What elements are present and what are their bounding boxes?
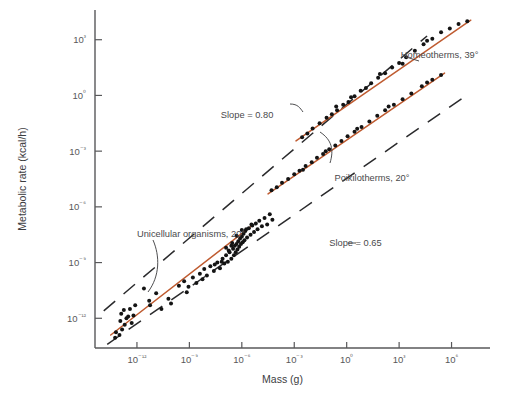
data-point (304, 164, 308, 168)
unicellular-label: Unicellular organisms, 20° (137, 229, 245, 239)
data-point (355, 127, 359, 131)
data-point (212, 269, 216, 273)
data-point (311, 126, 315, 130)
data-point (113, 336, 117, 340)
data-point (270, 188, 274, 192)
data-point (169, 301, 173, 305)
data-point (257, 219, 261, 223)
data-point (392, 103, 396, 107)
data-point (254, 222, 258, 226)
data-point (147, 299, 151, 303)
data-point (182, 279, 186, 283)
data-point (213, 262, 217, 266)
data-point (229, 257, 233, 261)
data-point (270, 218, 274, 222)
data-point (128, 307, 132, 311)
data-point (457, 22, 461, 26)
data-point (369, 81, 373, 85)
data-point (346, 134, 350, 138)
data-point (265, 223, 269, 227)
data-point (397, 61, 401, 65)
data-point (367, 119, 371, 123)
fit-line-homeotherms (296, 20, 471, 141)
data-point (159, 307, 163, 311)
data-point (166, 297, 170, 301)
data-point (133, 303, 137, 307)
data-point (131, 314, 135, 318)
data-point (430, 78, 434, 82)
data-point (422, 42, 426, 46)
data-point (310, 160, 314, 164)
data-point (297, 169, 301, 173)
data-point (119, 312, 123, 316)
chart-canvas: 10⁻¹²10⁻⁹10⁻⁶10⁻³10⁰10³10⁶10³10⁰10⁻³10⁻⁶… (0, 0, 528, 397)
x-axis-title: Mass (g) (262, 373, 303, 385)
data-point (142, 287, 146, 291)
data-point (425, 39, 429, 43)
data-point (375, 114, 379, 118)
data-point (187, 285, 191, 289)
data-point (315, 156, 319, 160)
metabolic-rate-vs-mass-figure: 10⁻¹²10⁻⁹10⁻⁶10⁻³10⁰10³10⁶10³10⁰10⁻³10⁻⁶… (0, 0, 528, 397)
slope-080-label: Slope = 0.80 (221, 110, 273, 120)
x-tick-label: 10⁻¹² (127, 353, 147, 365)
data-point (118, 319, 122, 323)
data-point (327, 147, 331, 151)
data-point (122, 308, 126, 312)
data-point (409, 92, 413, 96)
data-point (286, 177, 290, 181)
data-point (330, 112, 334, 116)
data-point (305, 132, 309, 136)
data-point (325, 116, 329, 120)
x-tick-label: 10⁰ (340, 353, 354, 365)
data-point (339, 139, 343, 143)
data-point (256, 227, 260, 231)
data-point (387, 105, 391, 109)
data-point (360, 125, 364, 129)
data-point (120, 327, 124, 331)
data-point (260, 224, 264, 228)
data-point (425, 80, 429, 84)
data-point (333, 144, 337, 148)
x-tick-label: 10⁻³ (286, 353, 304, 365)
x-tick-label: 10⁻⁶ (233, 353, 251, 365)
data-point (390, 66, 394, 70)
data-point (324, 149, 328, 153)
data-point (114, 330, 118, 334)
y-tick-label: 10⁻⁶ (69, 200, 87, 212)
data-point (268, 212, 272, 216)
data-point (383, 71, 387, 75)
data-point (154, 291, 158, 295)
poikilotherms-label: Poikilotherms, 20° (334, 173, 409, 183)
data-point (200, 277, 204, 281)
data-point (148, 303, 152, 307)
data-point (191, 275, 195, 279)
data-point (249, 223, 253, 227)
data-point (349, 95, 353, 99)
y-tick-label: 10⁻¹² (67, 312, 87, 324)
y-tick-label: 10⁰ (72, 89, 86, 101)
data-point (205, 274, 209, 278)
data-point (198, 272, 202, 276)
data-point (430, 37, 434, 41)
data-point (263, 216, 267, 220)
data-point (376, 76, 380, 80)
data-point (318, 121, 322, 125)
data-point (202, 267, 206, 271)
lower-envelope-slope-065 (107, 94, 469, 345)
y-tick-label: 10⁻³ (69, 145, 87, 157)
data-point (335, 108, 339, 112)
data-point (346, 100, 350, 104)
data-point (117, 333, 121, 337)
data-point (364, 86, 368, 90)
data-point (208, 264, 212, 268)
data-point (292, 172, 296, 176)
data-point (194, 281, 198, 285)
data-point (130, 321, 134, 325)
data-point (448, 27, 452, 31)
data-point (226, 260, 230, 264)
data-point (245, 236, 249, 240)
data-point (123, 323, 127, 327)
data-point (280, 181, 284, 185)
data-point (229, 244, 233, 248)
